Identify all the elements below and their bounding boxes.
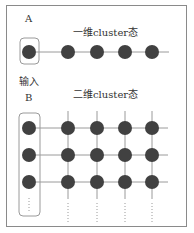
grid-node [145, 148, 159, 162]
grid-node [61, 148, 75, 162]
grid-node [61, 121, 75, 135]
grid-node [61, 175, 75, 189]
cluster-node [61, 45, 75, 59]
input-node-b [22, 121, 36, 135]
two-d-cluster [19, 111, 168, 222]
cluster-node [90, 45, 104, 59]
cluster-state-diagram [0, 0, 194, 233]
grid-node [145, 175, 159, 189]
grid-node [118, 175, 132, 189]
input-node-a [22, 45, 36, 59]
cluster-node [118, 45, 132, 59]
grid-node [118, 148, 132, 162]
grid-node [145, 121, 159, 135]
grid-node [90, 121, 104, 135]
cluster-node [145, 45, 159, 59]
one-d-cluster [20, 38, 169, 64]
grid-node [90, 148, 104, 162]
grid-node [118, 121, 132, 135]
grid-node [90, 175, 104, 189]
input-node-b [22, 148, 36, 162]
input-node-b [22, 175, 36, 189]
